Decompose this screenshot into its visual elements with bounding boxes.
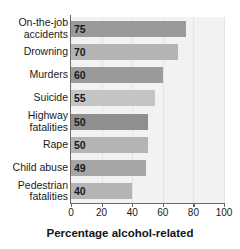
bar (71, 44, 178, 60)
category-label: On-the-job accidents (2, 17, 71, 40)
tick-label: 100 (209, 207, 239, 218)
bar-value-label: 75 (74, 23, 86, 34)
bar-value-label: 50 (74, 116, 86, 127)
bar-value-label: 55 (74, 93, 86, 104)
x-axis-title: Percentage alcohol-related (0, 227, 240, 239)
category-label: Highway fatalities (2, 110, 71, 133)
category-label: Pedestrian fatalities (2, 180, 71, 203)
bar (71, 21, 186, 37)
bar-value-label: 50 (74, 140, 86, 151)
category-label: Murders (2, 69, 71, 81)
y-axis-line (70, 15, 71, 204)
bar-value-label: 60 (74, 70, 86, 81)
bar-value-label: 40 (74, 186, 86, 197)
tick-label: 0 (56, 207, 86, 218)
bar-value-label: 70 (74, 47, 86, 58)
tick-label: 40 (117, 207, 147, 218)
tick-label: 80 (178, 207, 208, 218)
category-label: Suicide (2, 92, 71, 104)
bar-value-label: 49 (74, 163, 86, 174)
category-label: Drowning (2, 46, 71, 58)
category-label: Rape (2, 139, 71, 151)
tick-label: 20 (87, 207, 117, 218)
bar-chart: 7570605550504940 On-the-job accidentsDro… (0, 0, 240, 249)
category-label: Child abuse (2, 162, 71, 174)
x-axis-line (70, 203, 225, 204)
tick-label: 60 (148, 207, 178, 218)
